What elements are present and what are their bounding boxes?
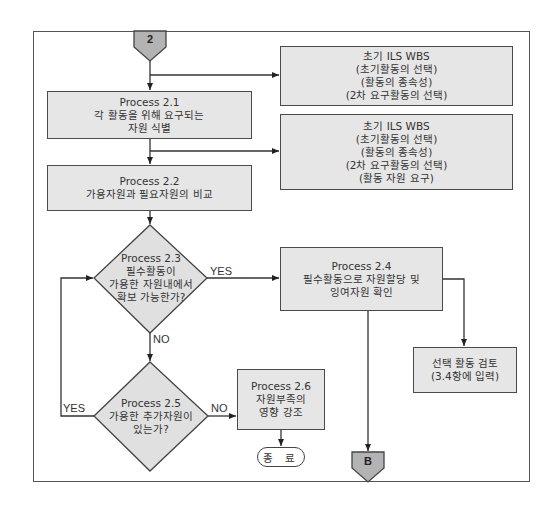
yes-label-2-3: YES	[210, 265, 232, 277]
review-line: 선택 활동 검토	[432, 357, 499, 370]
process-2-6-line: 자원부족의	[256, 393, 306, 406]
process-2-2-box: Process 2.2 가용자원과 필요자원의 비교	[47, 165, 252, 211]
wbs-1-line: 초기 ILS WBS	[363, 50, 429, 63]
process-2-6-box: Process 2.6 자원부족의 영향 강조	[237, 369, 325, 430]
wbs-box-1: 초기 ILS WBS (초기활동의 선택) (활동의 종속성) (2차 요구활동…	[280, 46, 513, 106]
review-selected-activities-box: 선택 활동 검토 (3.4항에 입력)	[413, 347, 517, 393]
wbs-2-line: (활동의 종속성)	[361, 146, 433, 159]
decision-2-3: Process 2.3 필수활동이 가용한 자원내에서 확보 가능한가?	[96, 250, 206, 306]
decision-2-3-line: 확보 가능한가?	[117, 291, 186, 304]
process-2-2-title: Process 2.2	[120, 175, 180, 188]
review-line: (3.4항에 입력)	[431, 370, 499, 383]
process-2-4-line: 필수활동으로 자원할당 및	[303, 273, 420, 286]
process-2-2-line: 가용자원과 필요자원의 비교	[86, 188, 213, 201]
process-2-6-line: 영향 강조	[259, 406, 302, 419]
yes-label-2-5: YES	[63, 402, 85, 414]
wbs-2-line: (2차 요구활동의 선택)	[346, 159, 448, 172]
process-2-4-title: Process 2.4	[332, 260, 392, 273]
process-2-6-title: Process 2.6	[251, 380, 311, 393]
end-connector-label: B	[352, 455, 384, 467]
process-2-4-box: Process 2.4 필수활동으로 자원할당 및 잉여자원 확인	[280, 247, 443, 311]
wbs-2-line: (활동 자원 요구)	[359, 172, 434, 185]
end-terminal: 종 료	[257, 447, 305, 467]
decision-2-5-line: 가용한 추가자원이	[109, 410, 192, 423]
decision-2-3-line: 필수활동이	[126, 265, 176, 278]
process-2-1-line: 자원 식별	[128, 122, 171, 135]
wbs-2-line: (초기활동의 선택)	[356, 133, 438, 146]
decision-2-5: Process 2.5 가용한 추가자원이 있는가?	[96, 394, 206, 438]
no-label-2-5: NO	[211, 402, 228, 414]
decision-2-3-title: Process 2.3	[121, 252, 181, 265]
wbs-1-line: (2차 요구활동의 선택)	[346, 89, 448, 102]
process-2-4-line: 잉여자원 확인	[330, 286, 393, 299]
wbs-box-2: 초기 ILS WBS (초기활동의 선택) (활동의 종속성) (2차 요구활동…	[280, 114, 513, 190]
process-2-1-box: Process 2.1 각 활동을 위해 요구되는 자원 식별	[47, 91, 252, 139]
no-label-2-3: NO	[153, 333, 170, 345]
process-2-1-title: Process 2.1	[120, 96, 180, 109]
decision-2-3-line: 가용한 자원내에서	[109, 278, 192, 291]
wbs-1-line: (초기활동의 선택)	[356, 63, 438, 76]
wbs-1-line: (활동의 종속성)	[361, 76, 433, 89]
decision-2-5-title: Process 2.5	[121, 397, 181, 410]
decision-2-5-line: 있는가?	[133, 423, 169, 436]
wbs-2-line: 초기 ILS WBS	[363, 120, 429, 133]
process-2-1-line: 각 활동을 위해 요구되는	[94, 109, 204, 122]
start-connector-label: 2	[134, 33, 166, 45]
